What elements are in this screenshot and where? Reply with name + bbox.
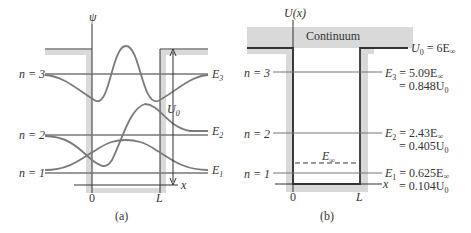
e1-label-a: E1 bbox=[211, 163, 223, 179]
panel-a: ψ x 0 L (a) U0 n = 3 n = 2 n = 1 E3 E2 E… bbox=[19, 10, 223, 223]
wavefunction-n1 bbox=[45, 140, 208, 170]
u0-label-a: U0 bbox=[167, 102, 180, 118]
n2-label-a: n = 2 bbox=[19, 128, 45, 142]
x-label-a: x bbox=[180, 178, 187, 192]
e3-equation-line2: = 0.848U0 bbox=[399, 79, 448, 95]
finite-well-diagram: ψ x 0 L (a) U0 n = 3 n = 2 n = 1 E3 E2 E… bbox=[0, 0, 471, 233]
tick-l-b: L bbox=[355, 190, 363, 204]
n3-label-a: n = 3 bbox=[19, 67, 45, 81]
n3-label-b: n = 3 bbox=[244, 66, 270, 80]
e2-equation-line2: = 0.405U0 bbox=[399, 139, 448, 155]
caption-b: (b) bbox=[320, 209, 334, 223]
e2-label-a: E2 bbox=[211, 124, 223, 140]
tick-0-b: 0 bbox=[290, 190, 296, 204]
n2-label-b: n = 2 bbox=[244, 127, 270, 141]
psi-label: ψ bbox=[89, 10, 97, 24]
panel-b: U(x) Continuum x 0 L (b) E∞ U0 = 6E∞ n =… bbox=[244, 6, 456, 223]
e-inf-label: E∞ bbox=[321, 149, 335, 165]
caption-a: (a) bbox=[115, 209, 128, 223]
well-shade-a bbox=[45, 50, 208, 193]
e1-equation-line2: = 0.104U0 bbox=[399, 179, 448, 195]
continuum-label: Continuum bbox=[306, 29, 361, 43]
n1-label-b: n = 1 bbox=[244, 167, 270, 181]
n1-label-a: n = 1 bbox=[19, 166, 45, 180]
tick-0-a: 0 bbox=[89, 191, 95, 205]
e3-label-a: E3 bbox=[211, 67, 223, 83]
u-axis-label: U(x) bbox=[284, 6, 306, 20]
u0-equation: U0 = 6E∞ bbox=[411, 41, 456, 57]
tick-l-a: L bbox=[155, 191, 163, 205]
